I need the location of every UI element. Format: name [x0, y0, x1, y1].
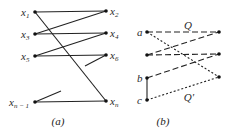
edge-q-l2-r1 [147, 32, 219, 55]
node-l2 [145, 53, 149, 57]
label-a: a [137, 26, 143, 38]
label-qprime: Q′ [184, 91, 195, 103]
label-q: Q [184, 19, 192, 31]
label-xn1: xn − 1 [8, 96, 29, 110]
label-x4: x4 [109, 27, 119, 41]
edge-xn1-xn [35, 101, 106, 102]
node-xn [104, 99, 108, 103]
node-a [145, 30, 149, 34]
label-c: c [137, 94, 142, 106]
node-x1 [33, 10, 37, 14]
edge-q-b-r2 [147, 54, 219, 78]
node-r1 [217, 30, 221, 34]
node-x5 [33, 54, 37, 58]
edge-x1-x2 [35, 11, 106, 12]
edge-x5-x4 [35, 33, 106, 56]
label-xn: xn [109, 95, 119, 109]
caption-a: (a) [52, 115, 65, 128]
node-b [145, 76, 149, 80]
label-x5: x5 [20, 50, 30, 64]
node-c [145, 98, 149, 102]
panel-b: a b c Q Q′ (b) [137, 19, 221, 128]
label-x2: x2 [109, 5, 119, 19]
node-x3 [33, 32, 37, 36]
partial-edge-xn1 [35, 91, 61, 102]
node-xn1 [33, 100, 37, 104]
edge-x1-xn [35, 12, 106, 101]
label-x6: x6 [109, 49, 119, 63]
node-x6 [104, 53, 108, 57]
matching-diagram: x1 x3 x5 xn − 1 x2 x4 x6 xn (a) a b c Q … [0, 0, 235, 134]
label-x3: x3 [20, 28, 30, 42]
label-x1: x1 [20, 6, 29, 20]
partial-edge-x6 [85, 55, 106, 66]
node-x2 [104, 9, 108, 13]
edge-x3-x2 [35, 11, 106, 34]
edge-x3-x4 [35, 33, 106, 34]
node-x4 [104, 31, 108, 35]
node-r3 [217, 75, 221, 79]
caption-b: (b) [157, 115, 170, 128]
edge-x5-x6 [35, 55, 106, 56]
label-b: b [137, 72, 143, 84]
node-r2 [217, 52, 221, 56]
panel-a: x1 x3 x5 xn − 1 x2 x4 x6 xn (a) [8, 5, 119, 128]
edge-q-l2-r2 [147, 54, 219, 55]
